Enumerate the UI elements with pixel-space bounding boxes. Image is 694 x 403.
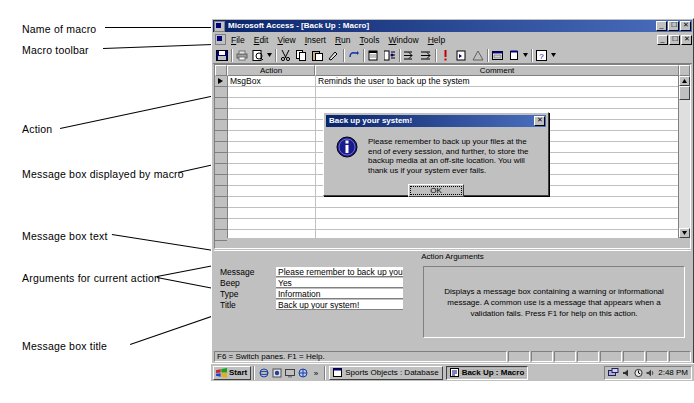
cell-action[interactable] <box>228 120 316 130</box>
argument-field-beep[interactable]: Yes <box>276 278 403 288</box>
close-button[interactable]: ✕ <box>680 21 691 31</box>
new-object-dropdown-icon[interactable] <box>522 48 529 62</box>
column-header-action[interactable]: Action <box>227 65 315 76</box>
table-row[interactable] <box>228 208 678 219</box>
restore-button[interactable]: ☐ <box>668 21 679 31</box>
ok-button[interactable]: OK <box>408 184 464 197</box>
document-restore-button[interactable]: ☐ <box>669 35 680 45</box>
table-row[interactable] <box>228 197 678 208</box>
start-button[interactable]: Start <box>213 366 251 380</box>
format-painter-icon[interactable] <box>326 48 341 62</box>
save-icon[interactable] <box>214 48 229 62</box>
help-dropdown-icon[interactable] <box>550 48 557 62</box>
taskbar-button-database[interactable]: Sports Objects : Database <box>329 366 442 380</box>
argument-field-type[interactable]: Information <box>276 289 403 299</box>
insert-rows-icon[interactable] <box>402 48 417 62</box>
table-row[interactable] <box>228 98 678 109</box>
cell-action[interactable] <box>228 175 316 185</box>
scheduler-icon[interactable] <box>634 364 643 382</box>
network-icon[interactable] <box>608 364 619 382</box>
row-selector[interactable] <box>215 98 227 109</box>
cut-icon[interactable] <box>278 48 293 62</box>
new-object-icon[interactable] <box>506 48 521 62</box>
build-icon[interactable] <box>470 48 485 62</box>
menu-item-help[interactable]: Help <box>427 34 446 46</box>
menu-item-insert[interactable]: Insert <box>304 34 327 46</box>
row-selector[interactable] <box>215 175 227 186</box>
row-selector[interactable] <box>215 109 227 120</box>
volume-icon[interactable] <box>622 364 631 382</box>
cell-action[interactable]: MsgBox <box>228 76 316 86</box>
menu-item-edit[interactable]: Edit <box>253 34 270 46</box>
row-selector[interactable] <box>215 197 227 208</box>
grid-select-all-corner[interactable] <box>215 65 227 76</box>
row-selector[interactable] <box>215 208 227 219</box>
macro-names-icon[interactable] <box>366 48 381 62</box>
argument-field-message[interactable]: Please remember to back up your fil <box>276 267 403 277</box>
row-selector[interactable] <box>215 164 227 175</box>
speaker-icon[interactable] <box>646 364 655 382</box>
run-icon[interactable] <box>438 48 453 62</box>
dialog-close-button[interactable]: ✕ <box>534 116 545 126</box>
menu-item-run[interactable]: Run <box>334 34 352 46</box>
cell-action[interactable] <box>228 87 316 97</box>
minimize-button[interactable]: _ <box>656 21 667 31</box>
menu-item-tools[interactable]: Tools <box>359 34 381 46</box>
scroll-track[interactable] <box>679 100 690 228</box>
menu-item-view[interactable]: View <box>276 34 296 46</box>
grid-vertical-scrollbar[interactable] <box>678 76 690 238</box>
cell-action[interactable] <box>228 164 316 174</box>
macro-document-icon[interactable] <box>215 34 226 45</box>
cell-comment[interactable] <box>316 230 678 240</box>
menu-item-window[interactable]: Window <box>387 34 419 46</box>
single-step-icon[interactable] <box>454 48 469 62</box>
scroll-up-button[interactable] <box>679 76 690 86</box>
more-icon[interactable]: » <box>310 367 322 379</box>
table-row[interactable] <box>228 219 678 230</box>
cell-action[interactable] <box>228 230 316 240</box>
row-selector[interactable] <box>215 186 227 197</box>
cell-action[interactable] <box>228 142 316 152</box>
table-row[interactable] <box>228 87 678 98</box>
table-row[interactable] <box>228 230 678 241</box>
cell-action[interactable] <box>228 208 316 218</box>
row-selector[interactable] <box>215 142 227 153</box>
channels-icon[interactable] <box>297 367 309 379</box>
row-selector[interactable] <box>215 153 227 164</box>
paste-icon[interactable] <box>310 48 325 62</box>
taskbar-button-macro[interactable]: Back Up : Macro <box>446 366 529 380</box>
cell-action[interactable] <box>228 219 316 229</box>
copy-icon[interactable] <box>294 48 309 62</box>
cell-comment[interactable] <box>316 197 678 207</box>
menu-item-file[interactable]: FFileile <box>230 34 246 46</box>
row-selector[interactable] <box>215 120 227 131</box>
argument-field-title[interactable]: Back up your system! <box>276 300 403 310</box>
cell-action[interactable] <box>228 153 316 163</box>
scroll-thumb[interactable] <box>679 86 690 100</box>
cell-action[interactable] <box>228 197 316 207</box>
row-selector-current[interactable] <box>215 76 227 87</box>
print-preview-icon[interactable] <box>250 48 265 62</box>
row-selector[interactable] <box>215 230 227 241</box>
cell-comment[interactable] <box>316 98 678 108</box>
cell-comment[interactable] <box>316 87 678 97</box>
conditions-icon[interactable] <box>382 48 397 62</box>
cell-action[interactable] <box>228 98 316 108</box>
column-header-comment[interactable]: Comment <box>315 65 679 76</box>
cell-action[interactable] <box>228 186 316 196</box>
row-selector[interactable] <box>215 219 227 230</box>
outlook-icon[interactable] <box>271 367 283 379</box>
table-row[interactable]: MsgBox Reminds the user to back up the s… <box>228 76 678 87</box>
print-icon[interactable] <box>234 48 249 62</box>
help-icon[interactable]: ? <box>534 48 549 62</box>
print-preview-dropdown-icon[interactable] <box>266 48 273 62</box>
database-window-icon[interactable] <box>490 48 505 62</box>
row-selector[interactable] <box>215 87 227 98</box>
show-desktop-icon[interactable] <box>284 367 296 379</box>
cell-action[interactable] <box>228 109 316 119</box>
cell-comment[interactable]: Reminds the user to back up the system <box>316 76 678 86</box>
cell-comment[interactable] <box>316 208 678 218</box>
undo-icon[interactable] <box>346 48 361 62</box>
document-close-button[interactable]: ✕ <box>681 35 692 45</box>
document-minimize-button[interactable]: _ <box>657 35 668 45</box>
